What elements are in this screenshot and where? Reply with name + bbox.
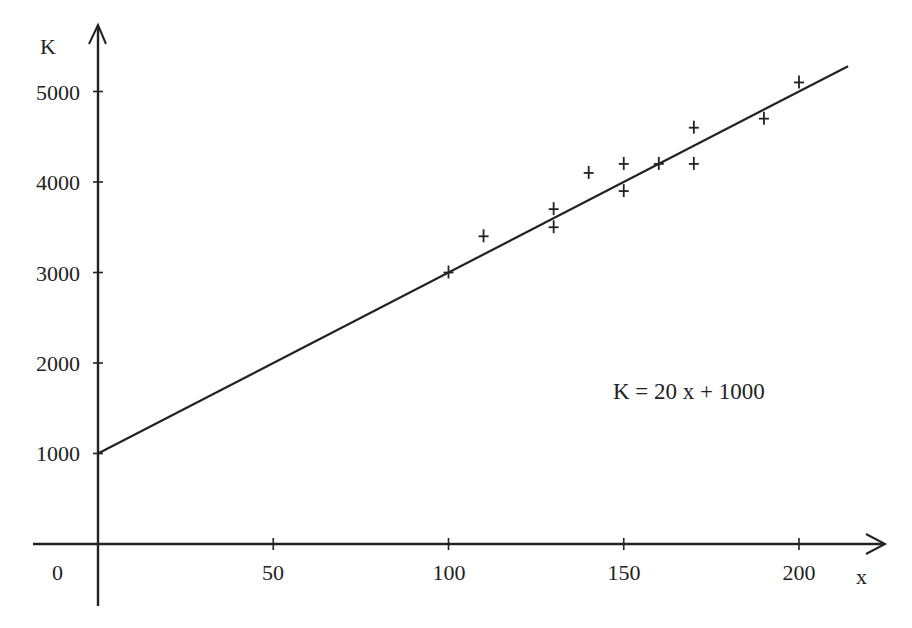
chart-canvas	[0, 0, 912, 628]
plus-marker-icon	[479, 229, 489, 242]
y-tick-label-5000: 5000	[10, 82, 80, 104]
plus-marker-icon	[619, 184, 629, 197]
plus-marker-icon	[444, 266, 454, 279]
plus-marker-icon	[759, 112, 769, 125]
x-tick-label-200: 200	[769, 562, 829, 584]
plus-marker-icon	[619, 157, 629, 170]
x-tick-label-150: 150	[594, 562, 654, 584]
plus-marker-icon	[794, 75, 804, 88]
y-tick-label-3000: 3000	[10, 263, 80, 285]
y-tick-label-4000: 4000	[10, 172, 80, 194]
y-axis-label: K	[40, 36, 56, 58]
plus-marker-icon	[654, 157, 664, 170]
plus-marker-icon	[549, 220, 559, 233]
plus-marker-icon	[689, 121, 699, 134]
x-tick-label-100: 100	[419, 562, 479, 584]
equation-annotation: K = 20 x + 1000	[613, 381, 765, 403]
plus-marker-icon	[584, 166, 594, 179]
y-tick-label-2000: 2000	[10, 353, 80, 375]
plus-marker-icon	[549, 202, 559, 215]
origin-label: 0	[52, 562, 63, 584]
plus-marker-icon	[689, 157, 699, 170]
x-axis-label: x	[856, 566, 867, 588]
x-tick-label-50: 50	[243, 562, 303, 584]
y-tick-label-1000: 1000	[10, 443, 80, 465]
